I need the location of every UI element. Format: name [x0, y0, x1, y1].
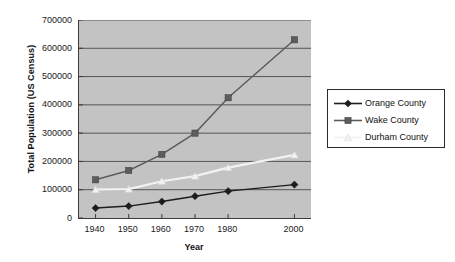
- x-axis-tick-label: 1980: [207, 224, 247, 234]
- data-point-marker: [344, 100, 351, 107]
- y-axis-tick-label: 500000: [24, 72, 72, 81]
- chart-legend: Orange CountyWake CountyDurham County: [327, 89, 445, 148]
- population-line-chart: Total Population (US Census) 01000002000…: [0, 0, 455, 262]
- x-axis-tick-labels: 194019501960197019802000: [78, 224, 310, 238]
- y-axis-tick-label: 300000: [24, 129, 72, 138]
- series-line: [96, 40, 295, 180]
- legend-item[interactable]: Durham County: [328, 129, 446, 146]
- legend-marker-icon: [333, 129, 363, 146]
- data-point-marker: [126, 167, 132, 173]
- plot-svg: [79, 20, 311, 218]
- legend-label: Orange County: [365, 98, 426, 108]
- data-point-marker: [92, 205, 99, 212]
- data-point-marker: [158, 198, 165, 205]
- y-axis-tick-label: 0: [24, 214, 72, 223]
- data-point-marker: [225, 188, 232, 195]
- y-axis-tick-labels: 0100000200000300000400000500000600000700…: [24, 0, 72, 262]
- data-point-marker: [225, 95, 231, 101]
- data-point-marker: [291, 181, 298, 188]
- legend-marker-icon: [333, 112, 363, 129]
- data-point-marker: [345, 117, 351, 123]
- legend-label: Durham County: [365, 132, 428, 142]
- data-point-marker: [92, 177, 98, 183]
- legend-item[interactable]: Wake County: [328, 112, 446, 129]
- y-axis-tick-label: 400000: [24, 100, 72, 109]
- y-axis-tick-label: 100000: [24, 185, 72, 194]
- x-axis-tick-label: 2000: [273, 224, 313, 234]
- y-axis-tick-label: 200000: [24, 157, 72, 166]
- data-point-marker: [192, 130, 198, 136]
- data-point-marker: [159, 151, 165, 157]
- y-axis-tick-label: 600000: [24, 44, 72, 53]
- y-axis-tick-label: 700000: [24, 16, 72, 25]
- legend-label: Wake County: [365, 115, 419, 125]
- data-point-marker: [191, 193, 198, 200]
- x-axis-title: Year: [78, 242, 310, 252]
- legend-item[interactable]: Orange County: [328, 95, 446, 112]
- data-point-marker: [125, 203, 132, 210]
- plot-area: [78, 20, 311, 219]
- legend-marker-icon: [333, 95, 363, 112]
- data-point-marker: [291, 37, 297, 43]
